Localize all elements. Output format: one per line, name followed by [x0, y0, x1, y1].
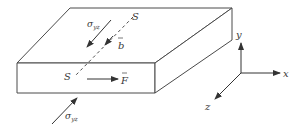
axis-y-label: y — [235, 29, 242, 40]
dislocation-diagram: S S σyz σyz b F y x z — [0, 0, 298, 130]
axis-x-label: x — [283, 68, 289, 79]
stress-label-bottom: σyz — [65, 111, 79, 123]
block-front-face — [17, 63, 155, 93]
axis-z-label: z — [204, 101, 211, 112]
burgers-vector-label: b — [118, 40, 124, 51]
coordinate-axes — [215, 43, 280, 99]
slip-line-label-bottom: S — [64, 71, 71, 82]
force-label: F — [120, 75, 129, 86]
slip-line-label-top: S — [132, 11, 139, 22]
axis-z — [215, 73, 241, 99]
